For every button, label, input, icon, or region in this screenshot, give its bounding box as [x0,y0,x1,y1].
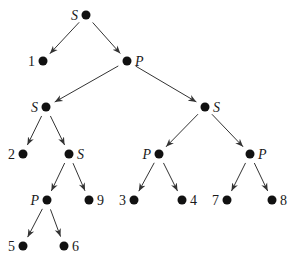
tree-node: 1 [28,54,48,69]
node-dot [178,196,187,205]
edge-arrow [254,163,267,191]
node-label: 7 [212,193,219,208]
node-label: P [141,147,151,162]
node-dot [268,196,277,205]
edge-arrow [50,116,64,145]
node-label: 9 [97,193,104,208]
tree-node: 4 [178,193,198,208]
node-dot [85,196,94,205]
tree-diagram: S1PSS2SPPP9347856 [0,0,295,260]
edge-arrow [27,116,41,145]
edges [27,22,267,237]
node-label: P [134,54,144,69]
node-label: 5 [8,239,15,254]
node-dot [39,57,48,66]
node-dot [19,150,28,159]
tree-node: 7 [212,193,232,208]
node-label: 8 [280,193,287,208]
node-dot [201,103,210,112]
tree-svg: S1PSS2SPPP9347856 [0,0,295,260]
node-label: 2 [8,147,15,162]
tree-node: 6 [60,239,80,254]
node-dot [43,196,52,205]
edge-arrow [50,209,60,236]
node-label: S [71,8,78,23]
edge-arrow [163,163,177,191]
node-label: S [77,147,84,162]
node-label: 6 [72,239,79,254]
edge-arrow [28,209,43,237]
tree-node: P [141,147,163,162]
tree-node: S [65,147,85,162]
node-dot [82,11,91,20]
edge-arrow [136,66,197,102]
node-label: S [31,100,38,115]
node-dot [65,150,74,159]
nodes: S1PSS2SPPP9347856 [8,8,287,254]
edge-arrow [93,22,121,53]
node-label: 4 [190,193,197,208]
node-dot [223,196,232,205]
node-label: 3 [119,193,126,208]
tree-node: 8 [268,193,288,208]
edge-arrow [50,22,79,53]
node-dot [19,242,28,251]
node-label: 1 [28,54,35,69]
edge-arrow [231,163,245,191]
tree-node: 9 [85,193,105,208]
edge-arrow [55,66,119,102]
node-label: P [257,147,267,162]
tree-node: S [31,100,51,115]
node-dot [42,103,51,112]
node-dot [155,150,164,159]
tree-node: P [246,147,268,162]
edge-arrow [212,114,243,147]
tree-node: 3 [119,193,139,208]
edge-arrow [51,163,64,191]
node-label: P [29,193,39,208]
node-dot [246,150,255,159]
tree-node: P [123,54,145,69]
edge-arrow [139,163,154,191]
tree-node: S [71,8,91,23]
tree-node: 5 [8,239,28,254]
node-dot [123,57,132,66]
tree-node: S [201,100,221,115]
node-dot [60,242,69,251]
edge-arrow [166,114,198,147]
tree-node: 2 [8,147,28,162]
tree-node: P [29,193,51,208]
node-label: S [213,100,220,115]
edge-arrow [73,163,85,191]
node-dot [130,196,139,205]
